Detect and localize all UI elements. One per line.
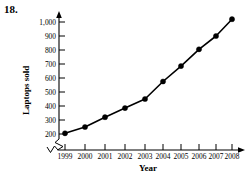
data-point-marker — [160, 79, 165, 84]
x-tick-label: 2004 — [156, 152, 171, 161]
x-tick-labels: 1999 2000 2001 2002 2003 2004 2005 2006 … — [58, 152, 240, 161]
data-point-marker — [196, 47, 201, 52]
x-tick-label: 2007 — [209, 152, 224, 161]
x-tick-label: 2003 — [138, 152, 153, 161]
y-tick-label: 200 — [45, 130, 56, 139]
data-point-marker — [122, 106, 127, 111]
data-point-marker — [82, 124, 87, 129]
data-point-marker — [229, 17, 234, 22]
x-tick-label: 2000 — [78, 152, 93, 161]
y-tick-labels: 1,000 900 800 700 600 500 400 300 200 — [39, 18, 56, 139]
x-tick-label: 2001 — [98, 152, 113, 161]
y-tick-label: 1,000 — [39, 18, 56, 27]
x-axis-title: Year — [139, 163, 157, 173]
y-axis-title: Laptops sold — [21, 66, 31, 115]
data-series-points — [62, 17, 234, 136]
data-point-marker — [142, 96, 147, 101]
data-point-marker — [102, 115, 107, 120]
y-tick-label: 600 — [45, 74, 56, 83]
y-tick-label: 400 — [45, 102, 56, 111]
y-tick-label: 900 — [45, 32, 56, 41]
y-axis-arrow-icon — [56, 11, 62, 18]
x-tick-label: 2002 — [118, 152, 133, 161]
x-tick-label: 2005 — [174, 152, 189, 161]
data-series-line — [65, 19, 232, 133]
x-axis-break-icon — [47, 146, 58, 153]
data-point-marker — [213, 33, 218, 38]
data-point-marker — [62, 131, 67, 136]
data-point-marker — [178, 64, 183, 69]
y-tick-label: 300 — [45, 116, 56, 125]
x-tick-marks — [65, 144, 232, 150]
y-axis — [55, 11, 63, 150]
y-tick-label: 500 — [45, 88, 56, 97]
y-tick-marks — [59, 22, 65, 134]
figure-container: 18. 1,000 — [0, 0, 252, 176]
x-tick-label: 1999 — [58, 152, 73, 161]
x-tick-label: 2008 — [225, 152, 240, 161]
x-tick-label: 2006 — [192, 152, 207, 161]
y-tick-label: 800 — [45, 46, 56, 55]
line-chart: 1,000 900 800 700 600 500 400 300 200 La… — [0, 0, 252, 176]
y-tick-label: 700 — [45, 60, 56, 69]
